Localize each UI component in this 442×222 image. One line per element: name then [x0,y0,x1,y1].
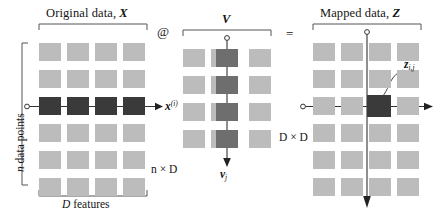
matrix-cell-highlighted [216,76,238,94]
matrix-cell [341,97,363,115]
matrix-cell [67,70,89,88]
matrix-cell [397,97,419,115]
matrix-cell-highlighted [216,49,238,67]
row-vector-label: x(i) [165,99,178,112]
matrix-cell [95,178,117,196]
matrix-cell [313,124,335,142]
matrix-cell-highlighted [123,97,145,115]
left-matrix-dimensions: n × D [151,163,177,175]
matrix-cell [313,178,335,196]
matrix-cell [67,151,89,169]
matrix-cell [369,124,391,142]
matrix-cell [123,178,145,196]
matrix-cell [183,49,205,67]
matrix-cell [95,124,117,142]
matrix-cell-highlighted [216,130,238,148]
matrix-cell [183,103,205,121]
matrix-cell [341,178,363,196]
projection-matrix [183,49,273,147]
mapped-element-label: zi,j [404,58,415,72]
matrix-cell-highlighted [367,95,391,117]
matrix-cell [341,151,363,169]
left-top-bracket [39,24,147,30]
left-row-arrow-origin-dot [25,104,30,109]
middle-top-bracket [183,30,271,36]
matrix-cell-highlighted [67,97,89,115]
matrix-cell [369,43,391,61]
matrix-cell [341,124,363,142]
column-vector-subscript: j [225,173,227,182]
matrix-cell [397,151,419,169]
right-matrix-title: Mapped data, Z [320,6,400,21]
right-col-arrow-origin-dot [365,30,370,35]
matrix-cell-highlighted [39,97,61,115]
matmul-operator: @ [157,24,169,40]
figure-canvas: Original data, X [0,0,442,222]
middle-col-arrow-head [223,158,231,167]
mapped-element-subscript: i,j [408,63,414,72]
matrix-cell [67,43,89,61]
right-matrix-title-symbol: Z [392,6,400,20]
matrix-cell [249,130,271,148]
row-vector-superscript: (i) [171,99,178,108]
matrix-cell [183,76,205,94]
middle-col-arrow-origin-dot [225,36,230,41]
matrix-cell [369,151,391,169]
matrix-cell [67,178,89,196]
matrix-cell [39,124,61,142]
matrix-cell [313,43,335,61]
matrix-cell [313,151,335,169]
left-matrix-row-axis-label: n data points [14,113,26,172]
left-row-axis-text: data points [14,113,26,163]
original-data-matrix [39,43,149,187]
matrix-cell [39,151,61,169]
matrix-cell [95,151,117,169]
matrix-cell [397,124,419,142]
middle-matrix-title-symbol: V [222,12,230,26]
column-vector-label: vj [220,168,227,182]
matrix-cell [249,49,271,67]
matrix-cell [249,76,271,94]
matrix-cell [123,43,145,61]
matrix-cell [341,70,363,88]
left-row-arrow-head [155,103,163,111]
matrix-cell [123,151,145,169]
matrix-cell [67,124,89,142]
middle-matrix-dimensions: D × D [279,131,308,143]
matrix-cell [39,70,61,88]
matrix-cell [313,70,335,88]
matrix-cell [397,70,419,88]
right-row-arrow-origin-dot [301,104,306,109]
right-col-arrow-head [363,196,371,208]
matrix-cell-highlighted [216,103,238,121]
matrix-cell [249,103,271,121]
matrix-cell [341,43,363,61]
middle-matrix-title: V [222,12,230,27]
matrix-cell [183,130,205,148]
left-matrix-col-axis-label: D features [62,198,110,210]
matrix-cell-highlighted [95,97,117,115]
matrix-cell [95,70,117,88]
matrix-cell [369,178,391,196]
right-matrix-title-text: Mapped data, [320,6,392,20]
matrix-cell [369,70,391,88]
matrix-cell [39,43,61,61]
right-row-arrow-head [424,103,433,111]
matrix-cell [95,43,117,61]
matrix-cell [123,124,145,142]
matrix-cell [313,97,335,115]
matrix-cell [39,178,61,196]
matrix-cell [397,178,419,196]
matrix-cell [123,70,145,88]
equals-operator: = [286,26,293,42]
